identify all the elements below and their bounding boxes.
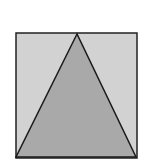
diagram-canvas bbox=[0, 0, 153, 164]
geometry-diagram bbox=[0, 0, 153, 164]
